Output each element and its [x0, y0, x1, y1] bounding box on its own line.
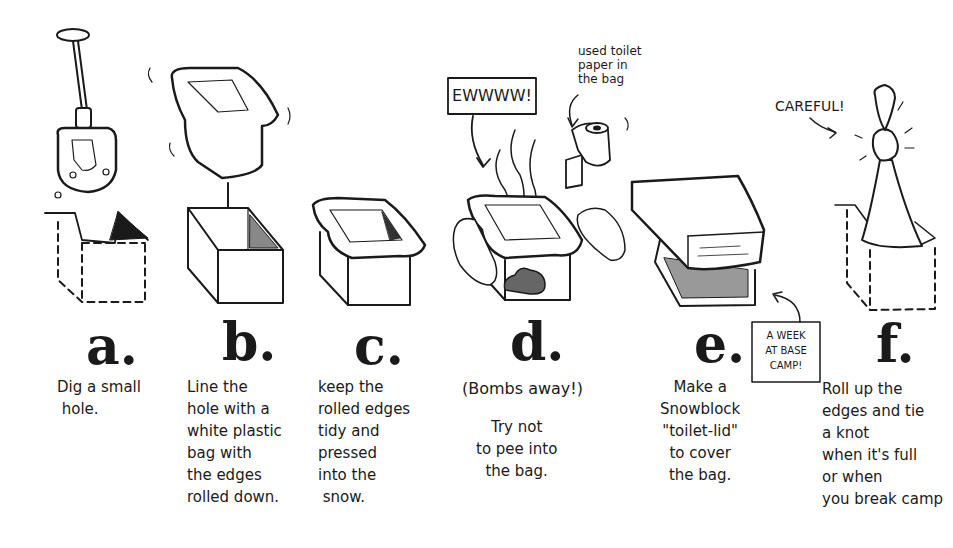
lined-box-icon [313, 198, 425, 305]
step-a-letter: a. [86, 320, 138, 372]
dashed-hole-icon [45, 212, 148, 302]
step-c-letter: c. [354, 320, 404, 372]
snowblock-lid-icon [632, 176, 764, 269]
footprint-right-icon [577, 208, 625, 260]
callout-careful: CAREFUL! [775, 98, 845, 114]
toilet-paper-icon [566, 95, 628, 188]
step-d-letter: d. [510, 316, 564, 368]
step-c-caption: keep the rolled edges tidy and pressed i… [318, 376, 410, 508]
step-d-aside: (Bombs away!) [462, 378, 583, 400]
step-b-caption: Line the hole with a white plastic bag w… [187, 376, 282, 508]
step-f-letter: f. [876, 318, 915, 370]
step-a-caption: Dig a small hole. [57, 376, 141, 420]
knotted-bag-icon [810, 85, 935, 310]
step-b-letter: b. [222, 316, 276, 368]
shovel-icon [55, 29, 116, 198]
step-e-letter: e. [694, 318, 745, 370]
step-f-caption: Roll up the edges and tie a knot when it… [822, 378, 943, 510]
plastic-bag-icon [148, 68, 290, 178]
box-icon [188, 208, 283, 303]
callout-week-at-base-camp: A WEEK AT BASE CAMP! [752, 328, 820, 373]
step-d-caption: Try not to pee into the bag. [476, 416, 557, 482]
callout-ewww: EWWWW! [448, 86, 536, 105]
callout-toilet-paper: used toilet paper in the bag [578, 44, 641, 86]
step-e-caption: Make a Snowblock "toilet-lid" to cover t… [660, 376, 740, 486]
